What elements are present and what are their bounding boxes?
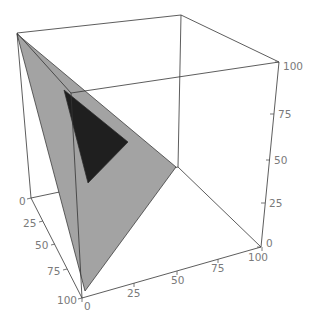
box-back-edge: [178, 15, 181, 167]
box-back-edge: [178, 167, 261, 247]
bottom_edge-tick-label: 75: [211, 262, 224, 274]
left_edge-tick-mark: [63, 269, 67, 270]
box-front-edge: [181, 15, 279, 62]
bottom_edge-tick-label: 25: [127, 287, 140, 299]
vertical-tick-label: 100: [283, 60, 303, 72]
left_edge-tick-label: 25: [23, 217, 36, 229]
left_edge-tick-mark: [27, 198, 31, 199]
left_edge-tick-mark: [78, 298, 82, 299]
vertical-tick-label: 0: [266, 237, 273, 249]
left_edge-tick-label: 0: [19, 195, 26, 207]
bottom_edge-tick-label: 100: [248, 251, 268, 263]
vertical-tick-label: 50: [274, 154, 287, 166]
plot-area: 025507510002550751000255075100: [0, 0, 317, 324]
left_edge-tick-mark: [39, 221, 43, 222]
box-front-edge: [71, 62, 279, 93]
vertical-tick-label: 75: [278, 108, 291, 120]
bottom_edge-tick-label: 0: [84, 300, 91, 312]
left_edge-tick-label: 75: [47, 265, 60, 277]
left_edge-tick-mark: [51, 244, 55, 245]
vertical-tick-label: 25: [269, 197, 282, 209]
left_edge-tick-label: 100: [57, 294, 77, 306]
left_edge-tick-label: 50: [35, 239, 48, 251]
3d-plot: 025507510002550751000255075100: [0, 0, 317, 324]
bottom_edge-tick-label: 50: [171, 274, 184, 286]
box-front-edge: [17, 15, 181, 33]
